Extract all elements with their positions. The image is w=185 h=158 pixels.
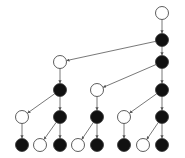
filled-node-circle <box>91 111 104 124</box>
empty-node-circle <box>137 139 150 152</box>
filled-node-circle <box>156 34 169 47</box>
edge-arrow <box>147 122 158 139</box>
edge-arrow <box>67 41 156 60</box>
nodes <box>16 7 169 152</box>
filled-node-circle <box>118 139 131 152</box>
edge-arrow <box>103 65 156 88</box>
filled-node-circle <box>156 84 169 97</box>
filled-node-circle <box>156 56 169 69</box>
filled-node-circle <box>54 139 67 152</box>
empty-node-circle <box>156 7 169 20</box>
filled-node-circle <box>54 84 67 97</box>
filled-node-circle <box>156 139 169 152</box>
filled-node-circle <box>91 139 104 152</box>
filled-node-circle <box>54 111 67 124</box>
empty-node-circle <box>72 139 85 152</box>
empty-node-circle <box>91 84 104 97</box>
tree-diagram <box>0 0 185 158</box>
empty-node-circle <box>16 111 29 124</box>
filled-node-circle <box>16 139 29 152</box>
empty-node-circle <box>54 56 67 69</box>
empty-node-circle <box>118 111 131 124</box>
edge-arrow <box>44 122 56 139</box>
edge-arrow <box>130 94 157 113</box>
edge-arrow <box>28 94 55 113</box>
empty-node-circle <box>34 139 47 152</box>
edge-arrow <box>82 122 93 139</box>
filled-node-circle <box>156 111 169 124</box>
